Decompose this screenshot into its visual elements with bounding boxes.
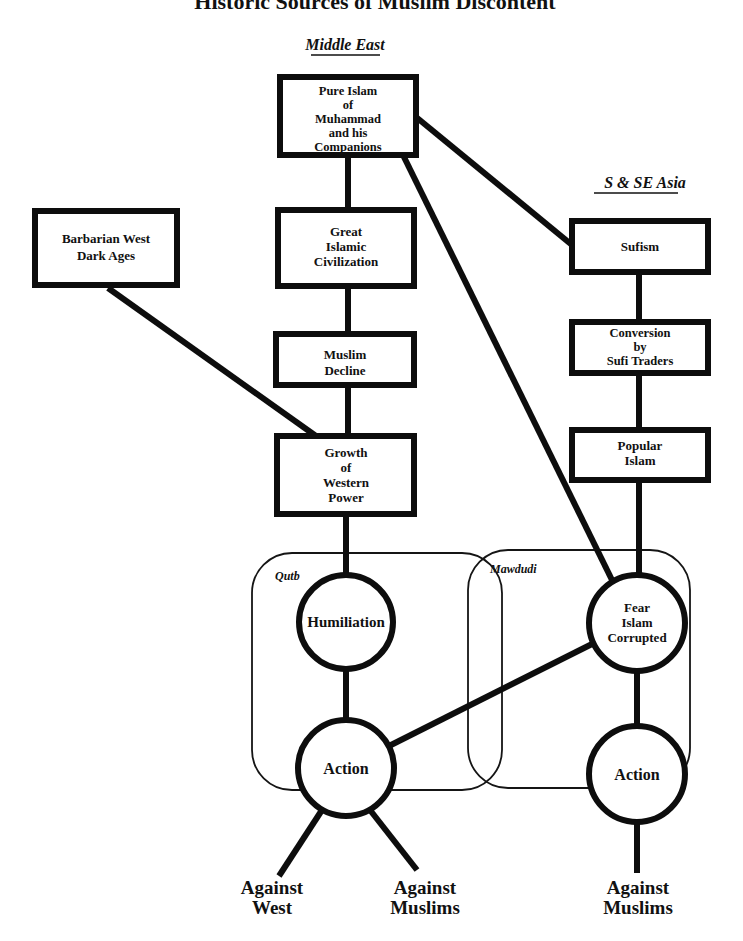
svg-text:Action: Action <box>323 760 368 777</box>
edge-action-to-against-west <box>279 810 322 876</box>
edge-fear-to-action-left <box>389 644 592 746</box>
svg-text:Sufism: Sufism <box>621 239 659 254</box>
outcome-against-muslims-left: Against Muslims <box>390 877 460 918</box>
svg-text:Muslims: Muslims <box>390 897 460 918</box>
group-label-qutb: Qutb <box>275 569 300 583</box>
group-label-mawdudi: Mawdudi <box>489 562 537 576</box>
svg-text:Growth: Growth <box>324 445 368 460</box>
node-great-civilization: Great Islamic Civilization <box>278 210 414 286</box>
svg-text:Against: Against <box>607 877 670 898</box>
svg-text:West: West <box>252 897 293 918</box>
node-humiliation: Humiliation <box>299 575 393 669</box>
outcome-against-west: Against West <box>241 877 304 918</box>
svg-text:Humiliation: Humiliation <box>307 614 385 630</box>
node-fear-islam-corrupted: Fear Islam Corrupted <box>589 575 685 671</box>
svg-text:Corrupted: Corrupted <box>607 630 667 645</box>
svg-text:Civilization: Civilization <box>314 254 379 269</box>
svg-text:Popular: Popular <box>618 438 663 453</box>
svg-text:Companions: Companions <box>314 140 382 154</box>
svg-text:Islam: Islam <box>621 615 652 630</box>
svg-text:Pure Islam: Pure Islam <box>319 84 378 98</box>
discontent-diagram: Historic Sources of Muslim Discontent Mi… <box>0 0 743 941</box>
svg-text:Decline: Decline <box>324 363 365 378</box>
svg-text:Sufi Traders: Sufi Traders <box>607 354 674 368</box>
svg-text:Muslim: Muslim <box>324 347 367 362</box>
svg-text:Muhammad: Muhammad <box>315 112 381 126</box>
node-western-power: Growth of Western Power <box>277 436 414 514</box>
svg-text:by: by <box>633 340 647 354</box>
svg-text:of: of <box>343 98 354 112</box>
svg-text:Western: Western <box>323 475 370 490</box>
svg-text:of: of <box>341 460 353 475</box>
edge-action-to-against-muslims-left <box>370 810 417 870</box>
svg-text:Against: Against <box>394 877 457 898</box>
svg-text:Power: Power <box>328 490 364 505</box>
node-sufism: Sufism <box>572 221 708 272</box>
node-pure-islam: Pure Islam of Muhammad and his Companion… <box>280 77 416 155</box>
outcome-against-muslims-right: Against Muslims <box>603 877 673 918</box>
svg-text:Dark Ages: Dark Ages <box>77 248 135 263</box>
svg-text:Against: Against <box>241 877 304 898</box>
svg-text:Islamic: Islamic <box>326 239 367 254</box>
svg-text:Conversion: Conversion <box>609 326 670 340</box>
node-action-right: Action <box>589 726 685 822</box>
svg-text:Islam: Islam <box>624 453 655 468</box>
node-barbarian-west: Barbarian West Dark Ages <box>35 211 177 285</box>
region-label-south-asia: S & SE Asia <box>594 174 686 193</box>
node-sufi-traders: Conversion by Sufi Traders <box>572 322 708 373</box>
region-label-middle-east: Middle East <box>304 36 385 55</box>
node-popular-islam: Popular Islam <box>572 430 708 480</box>
node-muslim-decline: Muslim Decline <box>276 334 414 385</box>
svg-text:Great: Great <box>330 224 363 239</box>
svg-text:and his: and his <box>329 126 368 140</box>
svg-text:Fear: Fear <box>624 600 650 615</box>
svg-text:Muslims: Muslims <box>603 897 673 918</box>
svg-text:S & SE Asia: S & SE Asia <box>604 174 686 191</box>
svg-text:Action: Action <box>614 766 659 783</box>
diagram-title: Historic Sources of Muslim Discontent <box>194 0 556 14</box>
svg-text:Middle East: Middle East <box>304 36 385 53</box>
svg-text:Barbarian West: Barbarian West <box>62 231 151 246</box>
node-action-left: Action <box>298 720 394 816</box>
